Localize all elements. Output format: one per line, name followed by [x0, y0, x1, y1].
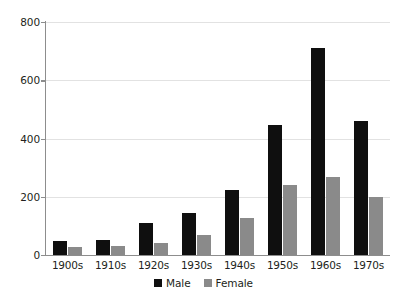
bar-groups — [46, 22, 390, 255]
bar-group-1910s — [89, 22, 132, 255]
x-tick-label-1950s: 1950s — [261, 259, 304, 271]
bar-female-1920s[interactable] — [154, 243, 168, 255]
bar-male-1950s[interactable] — [268, 125, 282, 255]
bar-female-1960s[interactable] — [326, 177, 340, 255]
x-tick-label-1940s: 1940s — [218, 259, 261, 271]
x-tick-label-1960s: 1960s — [304, 259, 347, 271]
y-tick-label-600: 600 — [8, 74, 40, 86]
bar-group-1960s — [304, 22, 347, 255]
y-axis-labels: 0 200 400 600 800 — [8, 0, 40, 302]
bar-group-1940s — [218, 22, 261, 255]
bar-group-1950s — [261, 22, 304, 255]
legend-item-female[interactable]: Female — [204, 277, 253, 289]
bar-male-1910s[interactable] — [96, 240, 110, 255]
bar-female-1970s[interactable] — [369, 197, 383, 255]
bar-chart: 0 200 400 600 800 1900s1910s1920s1930s19… — [0, 0, 407, 302]
y-tick-label-800: 800 — [8, 16, 40, 28]
legend-label-male: Male — [166, 277, 190, 289]
y-tick-label-400: 400 — [8, 133, 40, 145]
legend-swatch-male-icon — [154, 279, 162, 287]
bar-male-1920s[interactable] — [139, 223, 153, 255]
bar-male-1970s[interactable] — [354, 121, 368, 255]
x-tick-label-1920s: 1920s — [132, 259, 175, 271]
bar-group-1920s — [132, 22, 175, 255]
x-tick-label-1930s: 1930s — [175, 259, 218, 271]
bar-male-1930s[interactable] — [182, 213, 196, 255]
x-tick-label-1970s: 1970s — [347, 259, 390, 271]
bar-female-1910s[interactable] — [111, 246, 125, 255]
x-tick-label-1910s: 1910s — [89, 259, 132, 271]
bar-male-1940s[interactable] — [225, 190, 239, 255]
x-axis-line — [45, 255, 390, 256]
bar-female-1950s[interactable] — [283, 185, 297, 255]
bar-male-1900s[interactable] — [53, 241, 67, 255]
bar-group-1970s — [347, 22, 390, 255]
y-tick-label-0: 0 — [8, 249, 40, 261]
bar-female-1900s[interactable] — [68, 247, 82, 255]
legend-item-male[interactable]: Male — [154, 277, 190, 289]
y-tick-label-200: 200 — [8, 191, 40, 203]
bar-group-1900s — [46, 22, 89, 255]
bar-female-1940s[interactable] — [240, 218, 254, 255]
x-tick-label-1900s: 1900s — [46, 259, 89, 271]
legend-swatch-female-icon — [204, 279, 212, 287]
x-axis-labels: 1900s1910s1920s1930s1940s1950s1960s1970s — [46, 259, 390, 271]
bar-male-1960s[interactable] — [311, 48, 325, 255]
bar-group-1930s — [175, 22, 218, 255]
legend-label-female: Female — [216, 277, 253, 289]
bar-female-1930s[interactable] — [197, 235, 211, 255]
legend: Male Female — [0, 277, 407, 289]
